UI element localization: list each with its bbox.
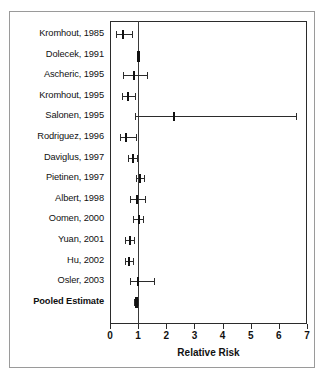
- study-label: Albert, 1998: [0, 193, 104, 203]
- ci-upper-cap: [154, 278, 155, 285]
- ci-upper-cap: [145, 196, 146, 203]
- point-estimate-marker: [173, 112, 175, 121]
- point-estimate-marker: [133, 71, 135, 80]
- study-label: Yuan, 2001: [0, 234, 104, 244]
- point-estimate-marker: [122, 30, 124, 39]
- point-estimate-marker: [138, 215, 140, 224]
- x-axis-tick: [251, 324, 252, 329]
- x-axis-tick-label: 3: [184, 330, 204, 341]
- study-label: Kromhout, 1985: [0, 28, 104, 38]
- x-axis-tick: [138, 324, 139, 329]
- point-estimate-marker: [127, 92, 129, 101]
- confidence-interval-line: [120, 137, 136, 138]
- ci-lower-cap: [125, 237, 126, 244]
- forest-plot-figure: Kromhout, 1985Dolecek, 1991Ascheric, 199…: [0, 0, 325, 379]
- ci-lower-cap: [123, 72, 124, 79]
- study-label: Ascheric, 1995: [0, 69, 104, 79]
- ci-upper-cap: [143, 216, 144, 223]
- ci-upper-cap: [135, 93, 136, 100]
- pooled-estimate-marker: [135, 297, 138, 308]
- point-estimate-marker: [139, 174, 141, 183]
- ci-lower-cap: [136, 175, 137, 182]
- study-label: Kromhout, 1995: [0, 90, 104, 100]
- x-axis-tick: [307, 324, 308, 329]
- study-label: Hu, 2002: [0, 255, 104, 265]
- study-label: Daviglus, 1997: [0, 152, 104, 162]
- x-axis-tick-label: 4: [213, 330, 233, 341]
- point-estimate-marker: [137, 277, 139, 286]
- x-axis-tick-label: 1: [128, 330, 148, 341]
- ci-upper-cap: [136, 134, 137, 141]
- ci-upper-cap: [137, 155, 138, 162]
- x-axis-title: Relative Risk: [110, 347, 307, 358]
- ci-upper-cap: [134, 237, 135, 244]
- point-estimate-marker: [128, 257, 130, 266]
- ci-upper-cap: [138, 299, 139, 306]
- x-axis-tick: [279, 324, 280, 329]
- x-axis-tick: [194, 324, 195, 329]
- study-label: Oomen, 2000: [0, 213, 104, 223]
- study-label: Rodriguez, 1996: [0, 131, 104, 141]
- point-estimate-marker: [136, 195, 138, 204]
- study-label: Pietinen, 1997: [0, 172, 104, 182]
- x-axis-tick: [223, 324, 224, 329]
- ci-lower-cap: [125, 258, 126, 265]
- study-label: Osler, 2003: [0, 275, 104, 285]
- x-axis-tick: [110, 324, 111, 329]
- study-label-column: Kromhout, 1985Dolecek, 1991Ascheric, 199…: [0, 0, 104, 379]
- ci-upper-cap: [147, 72, 148, 79]
- ci-upper-cap: [132, 31, 133, 38]
- ci-lower-cap: [120, 134, 121, 141]
- ci-lower-cap: [130, 196, 131, 203]
- point-estimate-marker: [125, 133, 127, 142]
- confidence-interval-line: [135, 116, 295, 117]
- confidence-interval-line: [130, 281, 154, 282]
- x-axis-tick: [166, 324, 167, 329]
- x-axis-tick-label: 5: [241, 330, 261, 341]
- x-axis-tick-label: 0: [100, 330, 120, 341]
- ci-lower-cap: [128, 155, 129, 162]
- ci-lower-cap: [133, 216, 134, 223]
- ci-upper-cap: [133, 258, 134, 265]
- ci-lower-cap: [116, 31, 117, 38]
- study-label: Pooled Estimate: [0, 296, 104, 306]
- ci-upper-cap: [144, 175, 145, 182]
- x-axis-tick-label: 2: [156, 330, 176, 341]
- point-estimate-marker: [129, 236, 131, 245]
- x-axis-tick-label: 6: [269, 330, 289, 341]
- ci-lower-cap: [135, 113, 136, 120]
- ci-upper-cap: [296, 113, 297, 120]
- plot-area: [110, 21, 307, 324]
- point-estimate-marker: [132, 154, 134, 163]
- x-axis-tick-label: 7: [297, 330, 317, 341]
- ci-lower-cap: [130, 278, 131, 285]
- study-label: Salonen, 1995: [0, 110, 104, 120]
- study-label: Dolecek, 1991: [0, 49, 104, 59]
- ci-lower-cap: [122, 93, 123, 100]
- point-estimate-marker: [137, 51, 140, 62]
